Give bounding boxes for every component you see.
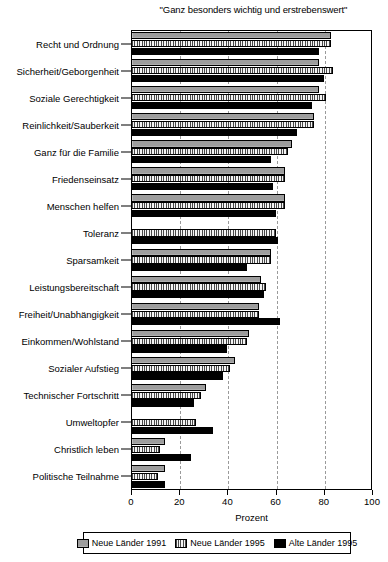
legend-label: Alte Länder 1995 (289, 538, 358, 548)
category-tick (121, 422, 131, 423)
category-label: Sicherheit/Geborgenheit (17, 65, 119, 76)
category-label: Technischer Fortschritt (23, 390, 119, 401)
bar-3 (131, 481, 165, 488)
x-tick-60 (276, 490, 277, 495)
bar-group (131, 411, 372, 434)
category-label: Politische Teilnahme (33, 471, 119, 482)
category-label: Recht und Ordnung (36, 38, 119, 49)
x-tick-40 (227, 490, 228, 495)
legend-label: Neue Länder 1995 (190, 538, 265, 548)
bar-2 (131, 202, 285, 209)
x-tick-label: 80 (319, 496, 330, 507)
legend-item[interactable]: Neue Länder 1995 (175, 538, 265, 548)
bar-3 (131, 372, 223, 379)
bar-1 (131, 59, 319, 66)
bar-2 (131, 40, 331, 47)
category-label: Reinlichkeit/Sauberkeit (22, 119, 119, 130)
bar-group (131, 465, 372, 488)
bar-1 (131, 465, 165, 472)
category-label: Umweltopfer (66, 417, 119, 428)
bar-rows-container (131, 30, 372, 490)
category-label: Sozialer Aufstieg (48, 363, 119, 374)
bar-3 (131, 102, 312, 109)
bar-1 (131, 32, 331, 39)
bar-3 (131, 318, 280, 325)
bar-1 (131, 330, 249, 337)
category-tick (121, 449, 131, 450)
bar-1 (131, 167, 285, 174)
category-axis: Recht und OrdnungSicherheit/Geborgenheit… (0, 30, 131, 490)
x-tick-label: 0 (128, 496, 133, 507)
legend-item[interactable]: Alte Länder 1995 (274, 538, 358, 548)
bar-1 (131, 249, 271, 256)
category-label: Menschen helfen (47, 200, 119, 211)
category-label: Soziale Gerechtigkeit (29, 92, 119, 103)
bar-2 (131, 121, 314, 128)
category-tick (121, 395, 131, 396)
swatch-alte-laender-1995-icon (274, 539, 286, 548)
bar-1 (131, 86, 319, 93)
bar-group (131, 167, 372, 190)
bar-3 (131, 75, 324, 82)
bar-group (131, 113, 372, 136)
bar-3 (131, 454, 191, 461)
bar-2 (131, 338, 247, 345)
swatch-neue-laender-1995-icon (175, 539, 187, 548)
bar-group (131, 86, 372, 109)
category-tick (121, 476, 131, 477)
category-label: Sparsamkeit (66, 255, 119, 266)
category-tick (121, 368, 131, 369)
category-label: Freiheit/Unabhängigkeit (19, 309, 119, 320)
bar-group (131, 59, 372, 82)
bar-1 (131, 194, 285, 201)
category-label: Friedenseinsatz (52, 173, 119, 184)
category-label: Ganz für die Familie (34, 146, 119, 157)
category-tick (121, 43, 131, 44)
bar-3 (131, 183, 273, 190)
bar-3 (131, 48, 319, 55)
x-tick-label: 100 (364, 496, 380, 507)
category-label: Toleranz (83, 227, 119, 238)
bar-group (131, 357, 372, 380)
bar-2 (131, 256, 271, 263)
category-tick (121, 232, 131, 233)
bar-2 (131, 365, 230, 372)
category-tick (121, 178, 131, 179)
category-tick (121, 260, 131, 261)
bar-group (131, 303, 372, 326)
bar-3 (131, 264, 247, 271)
category-label: Christlich leben (54, 444, 119, 455)
category-label: Einkommen/Wohlstand (21, 336, 119, 347)
bar-3 (131, 291, 264, 298)
bar-group (131, 330, 372, 353)
swatch-neue-laender-1991-icon (77, 539, 89, 548)
bar-2 (131, 283, 266, 290)
legend-item[interactable]: Neue Länder 1991 (77, 538, 167, 548)
bar-3 (131, 345, 227, 352)
bar-group (131, 222, 372, 245)
bar-group (131, 276, 372, 299)
bar-3 (131, 399, 194, 406)
bar-2 (131, 148, 288, 155)
category-tick (121, 287, 131, 288)
category-tick (121, 151, 131, 152)
bar-group (131, 249, 372, 272)
x-tick-label: 60 (270, 496, 281, 507)
category-label: Leistungsbereitschaft (29, 282, 119, 293)
bar-1 (131, 357, 235, 364)
bar-3 (131, 427, 213, 434)
bar-group (131, 384, 372, 407)
x-tick-20 (179, 490, 180, 495)
x-tick-80 (324, 490, 325, 495)
chart-legend: Neue Länder 1991Neue Länder 1995Alte Län… (83, 532, 351, 554)
x-tick-label: 40 (222, 496, 233, 507)
bar-2 (131, 67, 333, 74)
bar-3 (131, 156, 271, 163)
bar-2 (131, 473, 158, 480)
bar-1 (131, 276, 261, 283)
bar-group (131, 32, 372, 55)
bar-2 (131, 419, 196, 426)
bar-group (131, 194, 372, 217)
legend-label: Neue Länder 1991 (92, 538, 167, 548)
chart-title: "Ganz besonders wichtig und erstrebenswe… (131, 4, 376, 15)
